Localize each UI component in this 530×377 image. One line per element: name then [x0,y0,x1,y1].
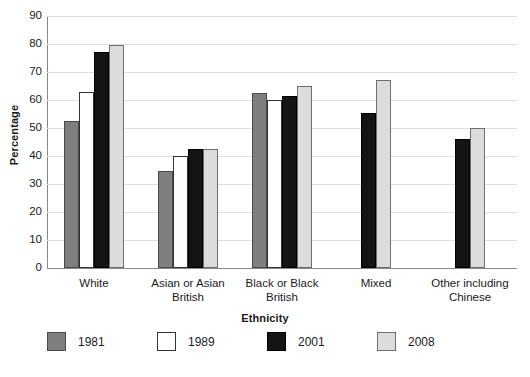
y-tick-label-10: 10 [2,234,42,246]
bar-2008 [297,86,312,268]
x-category-label-line: Other including [411,276,529,290]
bar-1981 [158,171,173,268]
bar-2008 [470,128,485,268]
bar-1989 [173,156,188,268]
bar-1989 [79,92,94,268]
bar-1981 [252,93,267,268]
legend-item-1989[interactable]: 1989 [157,332,267,351]
bar-1989 [267,100,282,268]
legend-item-2008[interactable]: 2008 [377,332,487,351]
plot-area [47,16,517,268]
legend-label: 1981 [78,335,105,349]
bar-2001 [361,113,376,268]
bar-chart: Percentage 9080706050403020100 WhiteAsia… [0,0,530,377]
bar-group [141,16,235,268]
x-category-label: Other includingChinese [411,276,529,304]
bar-group [329,16,423,268]
y-tick-label-60: 60 [2,94,42,106]
bar-2001 [282,96,297,268]
legend-swatch-icon [47,332,66,351]
bar-group [235,16,329,268]
legend-item-2001[interactable]: 2001 [267,332,377,351]
x-axis-title: Ethnicity [0,312,530,324]
gridline-0 [47,268,517,269]
y-tick-label-20: 20 [2,206,42,218]
legend-item-1981[interactable]: 1981 [47,332,157,351]
y-tick-label-50: 50 [2,122,42,134]
y-tick-label-80: 80 [2,38,42,50]
bar-2001 [455,139,470,268]
y-tick-label-40: 40 [2,150,42,162]
bar-group [423,16,517,268]
legend-swatch-icon [157,332,176,351]
legend-label: 1989 [188,335,215,349]
bar-2001 [94,52,109,268]
legend-swatch-icon [267,332,286,351]
x-category-label-line: Chinese [411,290,529,304]
legend-label: 2001 [298,335,325,349]
y-tick-label-90: 90 [2,10,42,22]
bar-group [47,16,141,268]
legend: 1981198920012008 [47,332,487,351]
bar-2008 [109,45,124,268]
y-tick-label-30: 30 [2,178,42,190]
bar-2008 [376,80,391,268]
x-category-label-line: British [223,290,341,304]
y-tick-label-70: 70 [2,66,42,78]
y-tick-label-0: 0 [2,262,42,274]
bar-2008 [203,149,218,268]
bar-2001 [188,149,203,268]
legend-swatch-icon [377,332,396,351]
legend-label: 2008 [408,335,435,349]
bar-1981 [64,121,79,268]
